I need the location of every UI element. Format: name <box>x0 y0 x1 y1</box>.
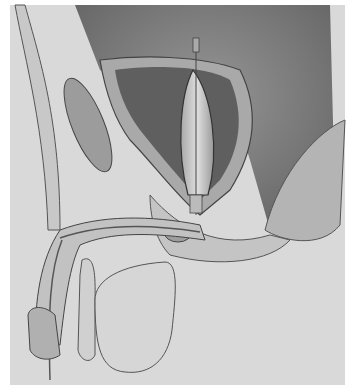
anatomy-illustration <box>0 0 354 392</box>
illustration-frame <box>0 0 354 392</box>
scrotum <box>95 262 175 372</box>
glans <box>28 308 60 360</box>
catheter-tip <box>193 38 199 52</box>
abdominal-wall <box>15 5 60 230</box>
spermatic-cord <box>78 259 95 361</box>
catheter-neck <box>190 195 202 213</box>
